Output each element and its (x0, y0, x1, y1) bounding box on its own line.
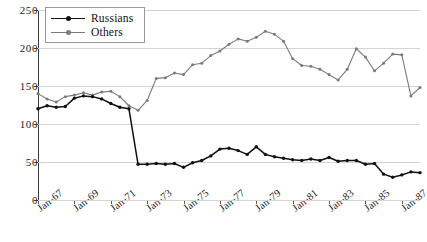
data-point (418, 171, 421, 174)
data-point (127, 107, 130, 110)
data-point (64, 105, 67, 108)
data-point (382, 62, 385, 65)
data-point (218, 147, 221, 150)
data-point (264, 153, 267, 156)
data-point (218, 50, 221, 53)
data-point (291, 57, 294, 60)
data-point (391, 53, 394, 56)
data-point (191, 161, 194, 164)
data-point (346, 68, 349, 71)
data-point (318, 68, 321, 71)
series-line-russians (38, 96, 420, 177)
data-point (145, 163, 148, 166)
data-point (164, 163, 167, 166)
data-point (200, 62, 203, 65)
data-point (245, 153, 248, 156)
legend-marker (66, 30, 71, 35)
data-point (282, 40, 285, 43)
data-point (309, 157, 312, 160)
data-point (54, 106, 57, 109)
legend-marker (66, 16, 71, 21)
data-point (191, 63, 194, 66)
data-point (46, 97, 49, 100)
data-point (200, 159, 203, 162)
data-point (100, 97, 103, 100)
data-point (255, 36, 258, 39)
data-point (146, 99, 149, 102)
data-point (337, 78, 340, 81)
data-point (109, 102, 112, 105)
data-point (37, 92, 40, 95)
data-point (327, 156, 330, 159)
data-point (73, 96, 76, 99)
data-point (155, 162, 158, 165)
data-point (82, 94, 85, 97)
data-point (419, 86, 422, 89)
data-point (255, 145, 258, 148)
data-point (155, 77, 158, 80)
legend-swatch-russians (51, 12, 85, 24)
data-point (118, 106, 121, 109)
data-point (91, 95, 94, 98)
data-point (273, 33, 276, 36)
data-point (300, 64, 303, 67)
data-point (364, 163, 367, 166)
data-point (118, 95, 121, 98)
legend-swatch-others (51, 26, 85, 38)
data-point (164, 76, 167, 79)
data-point (236, 149, 239, 152)
legend-label-others: Others (91, 26, 123, 38)
data-point (409, 170, 412, 173)
data-point (364, 56, 367, 59)
data-point (127, 104, 130, 107)
data-point (136, 163, 139, 166)
legend-item-others: Others (51, 25, 134, 39)
data-point (173, 72, 176, 75)
data-point (355, 159, 358, 162)
data-point (318, 159, 321, 162)
legend-item-russians: Russians (51, 11, 134, 25)
data-point (391, 176, 394, 179)
data-point (355, 47, 358, 50)
data-point (45, 104, 48, 107)
data-point (82, 91, 85, 94)
data-point (73, 94, 76, 97)
data-point (228, 43, 231, 46)
data-point (300, 159, 303, 162)
data-point (382, 172, 385, 175)
gridline (38, 200, 420, 201)
data-point (328, 73, 331, 76)
data-point (182, 73, 185, 76)
data-point (291, 158, 294, 161)
data-point (64, 95, 67, 98)
data-point (137, 109, 140, 112)
data-point (409, 94, 412, 97)
data-point (264, 30, 267, 33)
data-point (400, 173, 403, 176)
data-point (346, 159, 349, 162)
legend: Russians Others (45, 7, 145, 43)
data-point (100, 91, 103, 94)
data-point (227, 147, 230, 150)
data-point (36, 107, 39, 110)
data-point (237, 37, 240, 40)
data-point (55, 100, 58, 103)
data-point (209, 154, 212, 157)
data-point (309, 65, 312, 68)
data-point (373, 162, 376, 165)
data-point (182, 166, 185, 169)
data-point (209, 54, 212, 57)
line-chart: 050100150200250 Jan-67Jan-69Jan-71Jan-73… (0, 0, 427, 242)
data-point (336, 160, 339, 163)
data-point (273, 155, 276, 158)
data-point (400, 53, 403, 56)
data-point (173, 162, 176, 165)
data-point (373, 69, 376, 72)
data-point (282, 157, 285, 160)
legend-label-russians: Russians (91, 12, 134, 24)
data-point (246, 40, 249, 43)
data-point (109, 90, 112, 93)
